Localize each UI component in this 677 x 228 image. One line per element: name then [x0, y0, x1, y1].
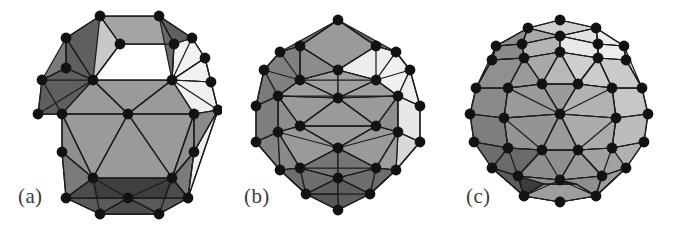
polyhedron-vertex	[555, 197, 566, 208]
polyhedron-vertex	[301, 189, 312, 200]
polyhedron-vertex	[95, 11, 106, 22]
polyhedron-vertex	[371, 121, 382, 132]
polyhedron-vertex	[491, 41, 502, 52]
polyhedron-vertex	[189, 109, 200, 120]
polyhedron-vertex	[365, 189, 376, 200]
polyhedron-vertex	[275, 47, 286, 58]
polyhedron-vertex	[573, 79, 584, 90]
polyhedron-vertex	[88, 173, 99, 184]
polyhedron-vertex	[333, 205, 344, 216]
polyhedron-vertex	[471, 83, 482, 94]
polyhedron-vertex	[639, 137, 650, 148]
polyhedron-vertex	[621, 163, 632, 174]
panel-a-drawing	[22, 2, 222, 228]
polyhedron-vertex	[251, 101, 262, 112]
polyhedron-vertex	[206, 77, 217, 88]
polyhedron-vertex	[333, 15, 344, 26]
polyhedron-vertex	[469, 137, 480, 148]
polyhedron-vertex	[200, 53, 211, 64]
polyhedron-vertex	[37, 75, 48, 86]
polyhedron-vertex	[295, 75, 306, 86]
polyhedron-vertex	[555, 109, 566, 120]
polyhedron-vertex	[183, 193, 194, 204]
panel-label-2: (b)	[244, 186, 270, 207]
polyhedron-vertex	[607, 143, 618, 154]
polyhedron-vertex	[523, 23, 534, 34]
polyhedron-vertex	[519, 191, 530, 202]
polyhedron-vertex	[415, 137, 426, 148]
polyhedron-vertex	[499, 113, 510, 124]
polyhedron-vertex	[61, 193, 72, 204]
polyhedron-vertex	[33, 109, 44, 120]
polyhedron-vertex	[393, 127, 404, 138]
polyhedron-vertex	[391, 165, 402, 176]
polyhedron-vertex	[273, 91, 284, 102]
polyhedron-vertex	[487, 163, 498, 174]
polyhedron-vertex	[333, 65, 344, 76]
polyhedron-vertex	[154, 11, 165, 22]
polyhedron-vertex	[295, 41, 306, 52]
polyhedron-vertex	[503, 143, 514, 154]
polyhedron-vertex	[371, 75, 382, 86]
polyhedron-vertex	[573, 145, 584, 156]
polyhedron-vertex	[465, 109, 476, 120]
polyhedron-vertex	[333, 143, 344, 154]
polyhedron-vertex	[591, 191, 602, 202]
polyhedron-vertex	[57, 109, 68, 120]
polyhedron-vertex	[187, 33, 198, 44]
polyhedron-vertex	[503, 83, 514, 94]
polyhedron-vertex	[517, 39, 528, 50]
polyhedron-vertex	[637, 83, 648, 94]
polyhedron-vertex	[405, 65, 416, 76]
polyhedron-vertex	[593, 53, 604, 64]
polyhedron-vertex	[154, 209, 165, 220]
polyhedron-vertex	[591, 23, 602, 34]
polyhedron-vertex	[513, 171, 524, 182]
polyhedron-vertex	[391, 47, 402, 58]
polyhedron-vertex	[189, 147, 200, 158]
polyhedron-vertex	[57, 147, 68, 158]
polyhedron-vertex	[607, 83, 618, 94]
polyhedron-vertex	[593, 39, 604, 50]
polyhedron-vertex	[555, 175, 566, 186]
polyhedron-vertex	[251, 137, 262, 148]
polyhedron-vertex	[61, 33, 72, 44]
polyhedron-vertex	[555, 15, 566, 26]
polyhedron-vertex	[259, 65, 270, 76]
polyhedron-vertex	[167, 75, 178, 86]
panel-label-1: (a)	[18, 186, 43, 207]
polyhedron-vertex	[619, 41, 630, 52]
polyhedron-vertex	[555, 47, 566, 58]
polyhedron-vertex	[95, 209, 106, 220]
polyhedron-vertex	[371, 163, 382, 174]
polyhedron-vertex	[621, 55, 632, 66]
polyhedron-vertex	[273, 127, 284, 138]
polyhedron-vertex	[295, 121, 306, 132]
polyhedron-vertex	[333, 173, 344, 184]
polyhedron-vertex	[123, 109, 134, 120]
polyhedron-vertex	[555, 31, 566, 42]
polyhedron-vertex	[333, 93, 344, 104]
polyhedron-vertex	[88, 75, 99, 86]
polyhedron-vertex	[275, 165, 286, 176]
polyhedron-vertex	[537, 145, 548, 156]
polyhedra-figure: (a)(b)(c)	[0, 0, 677, 228]
polyhedron-vertex	[643, 109, 654, 120]
panel-label-3: (c)	[466, 186, 491, 207]
polyhedron-vertex	[371, 41, 382, 52]
polyhedron-vertex	[537, 79, 548, 90]
polyhedron-vertex	[169, 39, 180, 50]
polyhedron-vertex	[167, 173, 178, 184]
polyhedron-vertex	[597, 171, 608, 182]
polyhedron-vertex	[61, 63, 72, 74]
panel-a	[22, 2, 222, 228]
polyhedron-vertex	[393, 91, 404, 102]
polyhedron-vertex	[115, 39, 126, 50]
polyhedron-vertex	[295, 163, 306, 174]
polyhedron-vertex	[415, 101, 426, 112]
polyhedron-vertex	[123, 193, 134, 204]
polyhedron-vertex	[519, 53, 530, 64]
polyhedron-vertex	[611, 113, 622, 124]
polyhedron-vertex	[487, 55, 498, 66]
